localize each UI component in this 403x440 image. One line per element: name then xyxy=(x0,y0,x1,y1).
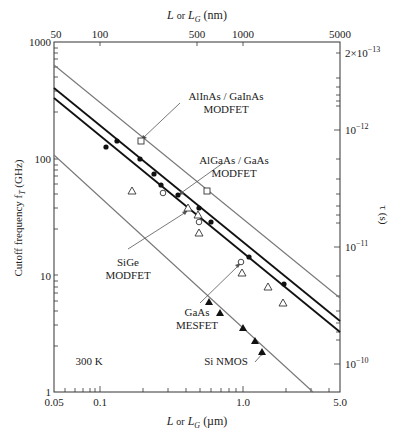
series-sige-open-circles xyxy=(160,190,244,265)
svg-text:1.0: 1.0 xyxy=(236,396,250,408)
svg-text:1: 1 xyxy=(46,386,52,398)
svg-text:50: 50 xyxy=(51,28,63,40)
svg-text:MODFET: MODFET xyxy=(203,103,249,115)
svg-text:1000: 1000 xyxy=(232,28,255,40)
svg-text:100: 100 xyxy=(92,28,109,40)
svg-text:MODFET: MODFET xyxy=(211,167,257,179)
svg-text:10−10: 10−10 xyxy=(345,356,369,370)
left-axis-title: Cutoff frequency fT (GHz) xyxy=(12,159,27,276)
x-axis-bottom-ticks xyxy=(65,386,329,392)
y-tick-labels-right: 2×10−13 10−12 10−11 10−10 xyxy=(345,45,380,370)
annotation-si-nmos: Si NMOS xyxy=(204,355,248,367)
svg-text:100: 100 xyxy=(35,153,52,165)
svg-text:10−11: 10−11 xyxy=(345,239,368,253)
svg-text:5000: 5000 xyxy=(329,28,352,40)
svg-text:10−12: 10−12 xyxy=(345,122,369,136)
svg-text:2×10−13: 2×10−13 xyxy=(345,45,380,59)
annotation-gaas-mesfet: GaAs xyxy=(184,306,209,318)
annotation-temperature: 300 K xyxy=(75,355,102,367)
annotation-sige: SiGe xyxy=(117,256,139,268)
right-axis-title: τ (s) xyxy=(377,206,390,225)
svg-text:10: 10 xyxy=(40,270,52,282)
annotation-algaas: AlGaAs / GaAs xyxy=(199,154,269,166)
y-tick-labels-left: 1000 100 10 1 xyxy=(29,36,52,398)
chart: 0.05 0.1 1.0 5.0 50 100 500 1000 5000 10… xyxy=(0,0,403,440)
x-tick-labels-top: 50 100 500 1000 5000 xyxy=(51,28,352,40)
svg-text:0.1: 0.1 xyxy=(93,396,107,408)
svg-text:500: 500 xyxy=(189,28,206,40)
series-open-triangles xyxy=(128,187,287,306)
svg-text:5.0: 5.0 xyxy=(333,396,347,408)
bottom-axis-title: L or LG (µm) xyxy=(166,414,228,430)
svg-text:MESFET: MESFET xyxy=(176,319,218,331)
y-axis-left-ticks xyxy=(54,48,58,346)
svg-text:MODFET: MODFET xyxy=(105,269,151,281)
svg-text:1000: 1000 xyxy=(29,36,52,48)
x-tick-labels-bottom: 0.05 0.1 1.0 5.0 xyxy=(44,396,347,408)
annotation-alinas: AlInAs / GaInAs xyxy=(188,90,263,102)
top-axis-title: L or LG (nm) xyxy=(166,8,227,24)
x-axis-top-ticks xyxy=(100,42,243,46)
